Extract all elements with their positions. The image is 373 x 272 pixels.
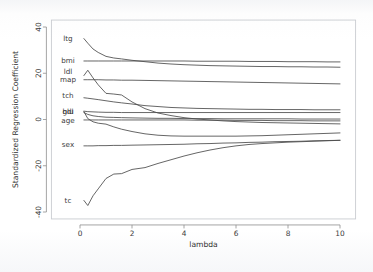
y-tick-label: 0	[34, 117, 43, 122]
coefficient-traces	[84, 39, 340, 206]
trace-tch	[84, 98, 340, 110]
trace-ldl	[84, 70, 340, 124]
trace-sex	[84, 140, 340, 146]
series-label-glu: glu	[62, 107, 73, 116]
series-label-tc: tc	[65, 196, 72, 205]
trace-bmi	[84, 61, 340, 62]
x-axis-title: lambda	[189, 240, 217, 249]
y-tick-label: -40	[34, 206, 43, 218]
trace-tc	[84, 140, 340, 205]
series-label-map: map	[60, 75, 76, 84]
series-label-age: age	[61, 116, 75, 125]
trace-tch2	[84, 112, 340, 137]
trace-ltg	[84, 39, 340, 68]
x-tick-label: 8	[286, 229, 291, 238]
x-tick-label: 0	[78, 229, 83, 238]
trace-hdl	[84, 111, 340, 112]
plot-svg: 40200-20-400246810 ltgbmildlmaptchhdlglu…	[0, 0, 373, 272]
x-tick-label: 10	[335, 229, 345, 238]
series-labels: ltgbmildlmaptchhdlgluagesextc	[60, 34, 76, 205]
chart-root: 40200-20-400246810 ltgbmildlmaptchhdlglu…	[0, 0, 373, 272]
series-label-tch: tch	[62, 91, 73, 100]
y-tick-label: 40	[34, 22, 43, 32]
series-label-sex: sex	[62, 140, 75, 149]
series-label-ltg: ltg	[63, 34, 72, 43]
trace-map	[84, 80, 340, 84]
series-label-bmi: bmi	[61, 56, 75, 65]
x-tick-label: 2	[130, 229, 135, 238]
trace-age	[84, 120, 340, 121]
y-tick-label: 20	[34, 68, 43, 78]
trace-glu	[84, 113, 340, 119]
axis-tick-labels: 40200-20-400246810	[34, 22, 345, 238]
x-tick-label: 4	[182, 229, 187, 238]
axis-ticks	[43, 27, 340, 228]
x-tick-label: 6	[234, 229, 239, 238]
ridge-trace-plot: 40200-20-400246810 ltgbmildlmaptchhdlglu…	[0, 0, 373, 272]
y-axis-title: Standardized Regression Coefficient	[11, 51, 20, 188]
y-tick-label: -20	[34, 159, 43, 171]
